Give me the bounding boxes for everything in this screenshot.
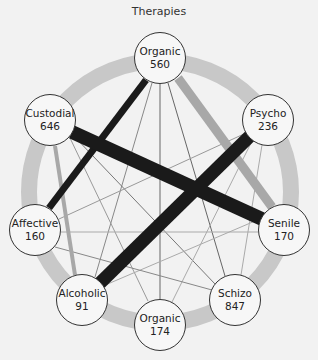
node-count: 91 — [75, 300, 88, 313]
strong-edges — [49, 80, 262, 283]
node-count: 160 — [25, 230, 45, 243]
node-psycho[interactable]: Psycho 236 — [242, 94, 294, 146]
node-label: Affective — [12, 217, 58, 230]
node-label: Custodial — [26, 107, 75, 120]
node-label: Organic — [140, 45, 181, 58]
node-alcoholic[interactable]: Alcoholic 91 — [56, 274, 108, 326]
node-count: 170 — [274, 230, 294, 243]
node-organic-top[interactable]: Organic 560 — [134, 32, 186, 84]
node-count: 560 — [150, 58, 170, 71]
thin-edges — [55, 83, 262, 302]
node-custodial[interactable]: Custodial 646 — [24, 94, 76, 146]
node-schizo[interactable]: Schizo 847 — [209, 274, 261, 326]
node-organic-bottom[interactable]: Organic 174 — [134, 299, 186, 351]
node-senile[interactable]: Senile 170 — [258, 204, 310, 256]
node-count: 174 — [150, 325, 170, 338]
node-count: 646 — [40, 120, 60, 133]
node-label: Alcoholic — [59, 287, 106, 300]
node-affective[interactable]: Affective 160 — [9, 204, 61, 256]
node-label: Psycho — [250, 107, 287, 120]
node-label: Senile — [268, 217, 300, 230]
node-label: Schizo — [218, 287, 252, 300]
node-count: 236 — [258, 120, 278, 133]
edge-custodial-schizo — [72, 134, 215, 284]
node-label: Organic — [140, 312, 181, 325]
edge-custodial-alcoholic — [55, 146, 75, 275]
node-count: 847 — [225, 300, 245, 313]
